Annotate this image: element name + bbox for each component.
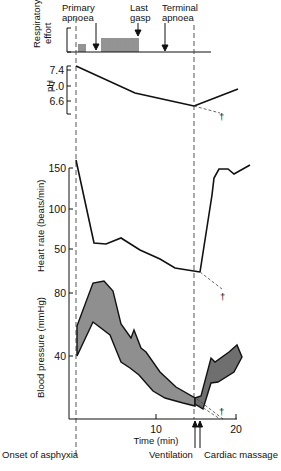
hr-line-asphyxia xyxy=(76,160,200,272)
terminal-apnoea-label-2: apnoea xyxy=(162,12,194,23)
arrowhead-icon xyxy=(135,30,141,36)
hr-death-marker: † xyxy=(220,291,225,302)
ph-line-death xyxy=(194,106,220,113)
x-axis-label: Time (min) xyxy=(133,435,178,446)
hr-tick-150: 150 xyxy=(48,162,66,174)
bp-tick-80: 80 xyxy=(54,287,66,299)
arrowhead-icon xyxy=(162,45,168,51)
physiological-chart: Primary apnoea Last gasp Terminal apnoea… xyxy=(0,0,281,471)
hr-line-resuscitated xyxy=(200,165,250,272)
breath-bars-primary xyxy=(79,44,85,52)
breath-bars-gasping xyxy=(102,38,138,52)
cardiac-massage-label: Cardiac massage xyxy=(204,449,278,460)
bp-axis-label: Blood pressure (mmHg) xyxy=(35,297,46,398)
x-tick-10: 10 xyxy=(150,423,162,435)
arrowhead-icon xyxy=(93,44,99,50)
ventilation-label: Ventilation xyxy=(149,449,193,460)
ph-tick-6-6: 6.6 xyxy=(49,95,64,107)
resp-axis-label-2: effort xyxy=(42,22,53,44)
bp-band-asphyxia xyxy=(77,281,195,406)
primary-apnoea-label-2: apnoea xyxy=(62,12,94,23)
last-gasp-label-2: gasp xyxy=(130,12,151,23)
hr-tick-50: 50 xyxy=(54,243,66,255)
bp-death-marker: † xyxy=(219,406,224,417)
bp-band-resuscitated xyxy=(195,345,242,409)
x-axis: 10 20 Time (min) Onset of asphyxia Venti… xyxy=(2,414,278,460)
ph-death-marker: † xyxy=(219,111,224,122)
ph-line-resuscitated xyxy=(194,89,238,106)
x-tick-20: 20 xyxy=(230,423,242,435)
blood-pressure-panel: Blood pressure (mmHg) 80 40 † xyxy=(35,281,242,419)
hr-line-death xyxy=(200,272,222,289)
hr-tick-100: 100 xyxy=(48,203,66,215)
ph-tick-7-4: 7.4 xyxy=(49,64,64,76)
ph-tick-7-0: 7.0 xyxy=(49,80,64,92)
onset-of-asphyxia-label: Onset of asphyxia xyxy=(2,449,79,460)
resp-scale-bracket xyxy=(67,28,71,52)
resp-axis-label-1: Respiratory xyxy=(31,0,42,48)
hr-axis-label: Heart rate (beats/min) xyxy=(35,180,46,272)
bp-tick-40: 40 xyxy=(54,350,66,362)
ph-panel: pH 7.4 7.0 6.6 † xyxy=(44,64,238,122)
ph-line-asphyxia xyxy=(76,66,194,106)
